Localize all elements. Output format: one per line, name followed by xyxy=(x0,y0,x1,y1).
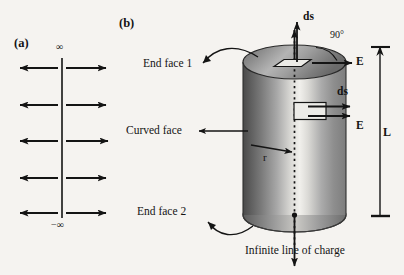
right-angle-label: 90° xyxy=(330,30,344,40)
line-of-charge-label: Infinite line of charge xyxy=(245,245,345,257)
e-top-label: E xyxy=(356,56,364,68)
end-face-1-label: End face 1 xyxy=(143,58,192,70)
curved-face-label: Curved face xyxy=(126,125,182,137)
e-side-label: E xyxy=(356,120,364,132)
panel-a-top-infinity: ∞ xyxy=(56,42,63,52)
panel-a-bottom-infinity: −∞ xyxy=(51,220,64,230)
ds-side-label: ds xyxy=(337,86,348,98)
curved-face-ds-patch xyxy=(294,103,326,120)
panel-a-tag: (a) xyxy=(14,37,29,50)
panel-a-graphics xyxy=(20,58,108,218)
end-face-2-leader-line xyxy=(208,222,253,235)
radius-label: r xyxy=(263,152,267,163)
length-label: L xyxy=(383,126,391,138)
end-face-2-label: End face 2 xyxy=(137,206,186,218)
panel-b-tag: (b) xyxy=(119,17,134,30)
figure-canvas: (a) ∞ −∞ (b) End face 1 Curved face End … xyxy=(0,0,404,275)
ds-top-label: ds xyxy=(303,11,314,23)
